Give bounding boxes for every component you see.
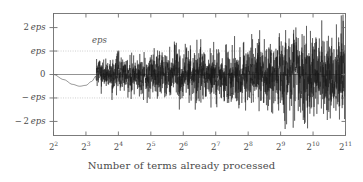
x-tick-label: 26 bbox=[170, 143, 196, 152]
y-tick-label: 0 bbox=[0, 70, 46, 79]
x-tick-label: 27 bbox=[203, 143, 229, 152]
x-tick-label: 25 bbox=[138, 143, 164, 152]
y-tick-label: eps bbox=[0, 47, 46, 56]
chart-figure: 2 epseps0− eps− 2 eps 222324252627282921… bbox=[0, 0, 363, 182]
x-axis-title: Number of terms already processed bbox=[0, 160, 363, 171]
x-tick-label: 211 bbox=[333, 143, 359, 152]
plot-area bbox=[0, 0, 363, 182]
eps-annotation: eps bbox=[92, 35, 107, 45]
x-tick-label: 22 bbox=[41, 143, 67, 152]
x-tick-label: 24 bbox=[105, 143, 131, 152]
x-tick-label: 29 bbox=[268, 143, 294, 152]
y-tick-label: − eps bbox=[0, 93, 46, 102]
x-tick-label: 23 bbox=[73, 143, 99, 152]
y-tick-label: 2 eps bbox=[0, 23, 46, 32]
data-series-line bbox=[54, 15, 346, 129]
x-tick-label: 28 bbox=[235, 143, 261, 152]
y-tick-label: − 2 eps bbox=[0, 117, 46, 126]
x-tick-label: 210 bbox=[300, 143, 326, 152]
